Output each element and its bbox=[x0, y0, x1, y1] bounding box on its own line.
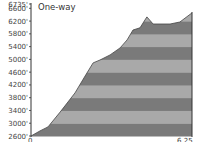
chart-title: One-way bbox=[38, 2, 76, 12]
y-tick-label: 3800' bbox=[8, 94, 28, 102]
y-tick-label: 4600' bbox=[8, 69, 28, 77]
y-tick-label: 4200' bbox=[8, 81, 28, 89]
y-tick-label: 6600' bbox=[8, 5, 28, 13]
y-tick-label: 6200' bbox=[8, 18, 28, 26]
x-tick-start: 0 bbox=[28, 137, 32, 142]
y-tick-label: 3400' bbox=[8, 107, 28, 115]
elevation-bands bbox=[31, 0, 192, 136]
y-tick-label: 3000' bbox=[8, 120, 28, 128]
y-tick-label: 2600' bbox=[8, 133, 28, 141]
y-axis-ticks: 6735'6600'6200'5800'5400'5000'4600'4200'… bbox=[8, 1, 31, 141]
elevation-chart: 6735'6600'6200'5800'5400'5000'4600'4200'… bbox=[0, 0, 201, 142]
y-tick-label: 5800' bbox=[8, 30, 28, 38]
x-tick-end: 6.25 bbox=[177, 137, 193, 142]
y-tick-label: 5400' bbox=[8, 43, 28, 51]
y-tick-label: 5000' bbox=[8, 56, 28, 64]
